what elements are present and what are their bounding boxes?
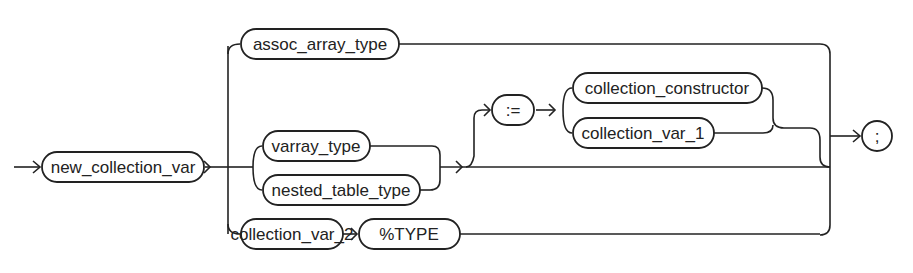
node-nested-table-type: nested_table_type xyxy=(263,175,420,205)
node-assoc-array-type: assoc_array_type xyxy=(241,29,399,59)
node-type-attribute: %TYPE xyxy=(359,219,460,249)
node-collection-var-1: collection_var_1 xyxy=(573,118,714,148)
svg-text:varray_type: varray_type xyxy=(272,137,361,156)
svg-text:nested_table_type: nested_table_type xyxy=(272,181,411,200)
svg-text::=: := xyxy=(506,101,521,120)
entry-arrow xyxy=(14,161,40,173)
svg-text:%TYPE: %TYPE xyxy=(379,225,439,244)
svg-text:;: ; xyxy=(875,127,880,146)
node-collection-constructor: collection_constructor xyxy=(573,73,762,103)
svg-text:collection_constructor: collection_constructor xyxy=(585,79,750,98)
svg-text:collection_var_1: collection_var_1 xyxy=(582,124,705,143)
svg-text:collection_var_2: collection_var_2 xyxy=(231,225,354,244)
node-varray-type: varray_type xyxy=(263,131,370,161)
syntax-diagram: new_collection_var assoc_array_type varr… xyxy=(0,0,913,273)
svg-text:new_collection_var: new_collection_var xyxy=(51,158,196,177)
node-semicolon: ; xyxy=(862,121,892,151)
node-assign-operator: := xyxy=(492,95,534,125)
svg-text:assoc_array_type: assoc_array_type xyxy=(253,35,387,54)
node-collection-var-2: collection_var_2 xyxy=(231,219,354,249)
node-new-collection-var: new_collection_var xyxy=(42,152,204,182)
